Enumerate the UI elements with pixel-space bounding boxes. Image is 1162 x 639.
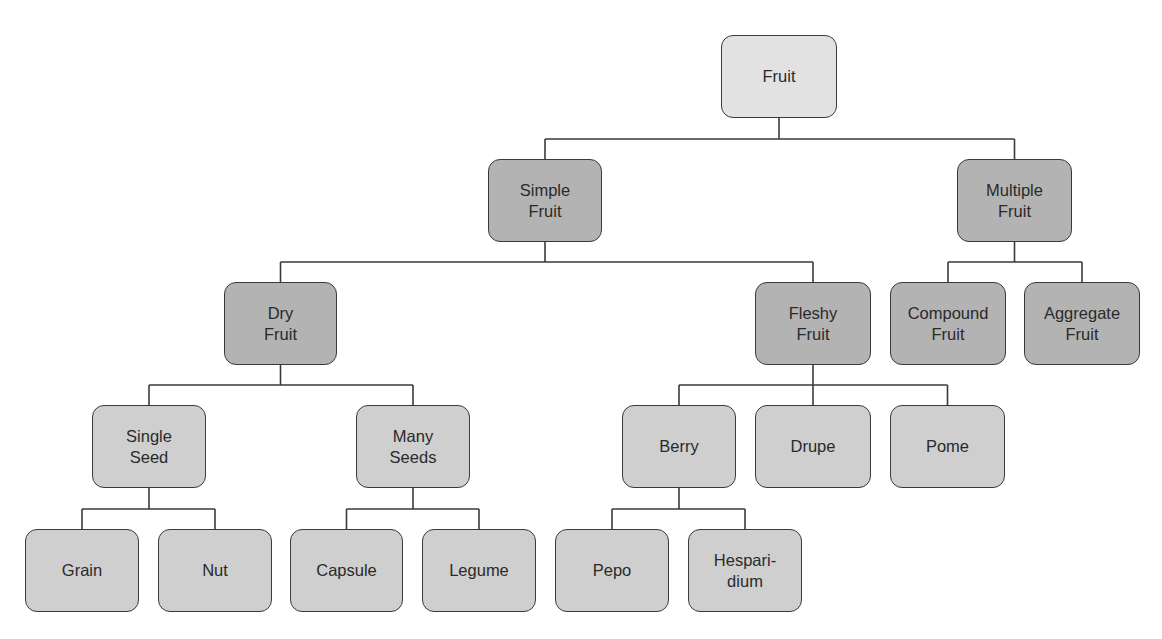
node-aggregate-fruit: Aggregate Fruit	[1024, 282, 1140, 365]
node-drupe: Drupe	[755, 405, 871, 488]
node-single-seed: Single Seed	[92, 405, 206, 488]
node-label: Aggregate Fruit	[1044, 303, 1120, 345]
node-multiple-fruit: Multiple Fruit	[957, 159, 1072, 242]
node-label: Fleshy Fruit	[789, 303, 838, 345]
node-fleshy-fruit: Fleshy Fruit	[755, 282, 871, 365]
node-legume: Legume	[422, 529, 536, 612]
node-label: Single Seed	[126, 426, 172, 468]
fruit-classification-diagram: FruitSimple FruitMultiple FruitDry Fruit…	[0, 0, 1162, 639]
node-simple-fruit: Simple Fruit	[488, 159, 602, 242]
node-label: Simple Fruit	[520, 180, 570, 222]
node-compound-fruit: Compound Fruit	[890, 282, 1006, 365]
node-label: Drupe	[791, 436, 836, 457]
node-fruit: Fruit	[721, 35, 837, 118]
node-label: Pome	[926, 436, 969, 457]
node-label: Capsule	[316, 560, 377, 581]
node-hesparidium: Hespari- dium	[688, 529, 802, 612]
node-pome: Pome	[890, 405, 1005, 488]
node-label: Nut	[202, 560, 228, 581]
node-label: Many Seeds	[390, 426, 437, 468]
node-berry: Berry	[622, 405, 736, 488]
node-label: Dry Fruit	[264, 303, 297, 345]
node-grain: Grain	[25, 529, 139, 612]
node-label: Berry	[659, 436, 698, 457]
node-nut: Nut	[158, 529, 272, 612]
node-label: Fruit	[763, 66, 796, 87]
node-label: Pepo	[593, 560, 632, 581]
node-label: Hespari- dium	[714, 550, 776, 592]
node-label: Multiple Fruit	[986, 180, 1043, 222]
node-capsule: Capsule	[290, 529, 403, 612]
node-many-seeds: Many Seeds	[356, 405, 470, 488]
node-dry-fruit: Dry Fruit	[224, 282, 337, 365]
node-label: Legume	[449, 560, 509, 581]
node-label: Compound Fruit	[908, 303, 989, 345]
node-label: Grain	[62, 560, 102, 581]
node-pepo: Pepo	[555, 529, 669, 612]
